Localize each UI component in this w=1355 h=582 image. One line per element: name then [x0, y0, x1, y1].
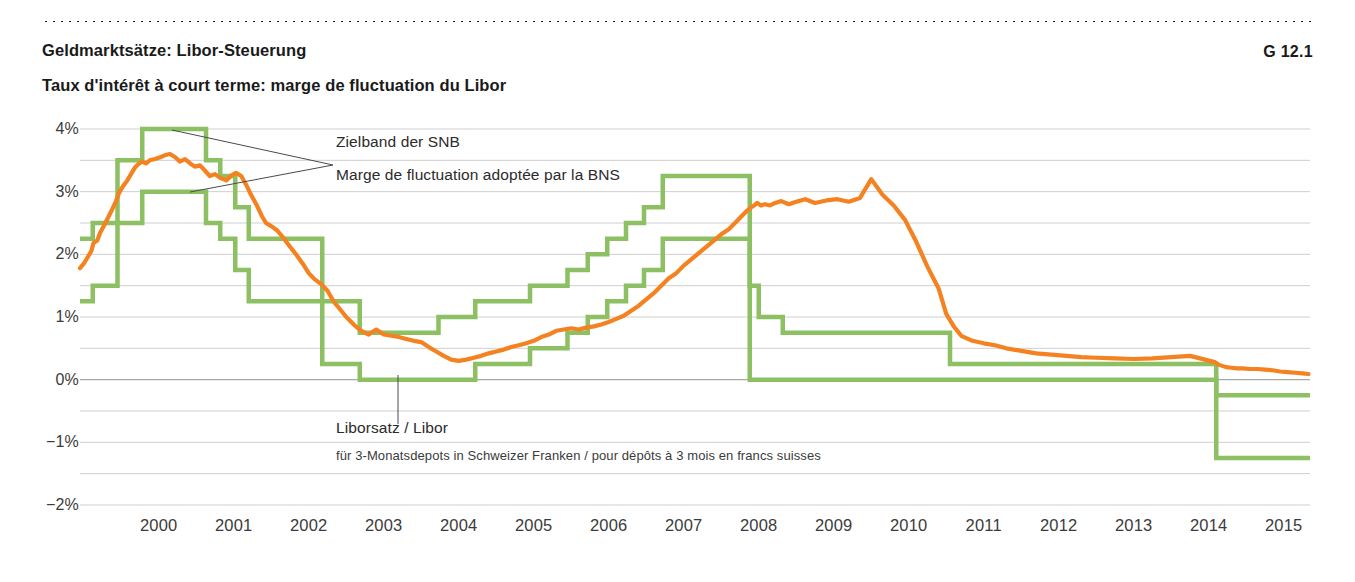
x-tick-2015: 2015	[1265, 516, 1303, 535]
x-tick-2014: 2014	[1190, 516, 1228, 535]
x-tick-2005: 2005	[515, 516, 553, 535]
annotation-band-de: Zielband der SNB	[336, 133, 460, 151]
y-tick-neg2: −2%	[46, 496, 79, 514]
libor-series	[80, 154, 1309, 374]
x-tick-2010: 2010	[890, 516, 928, 535]
y-tick-0: 0%	[55, 371, 79, 389]
y-tick-2: 2%	[55, 245, 79, 263]
x-tick-2003: 2003	[365, 516, 403, 535]
x-tick-2013: 2013	[1115, 516, 1153, 535]
x-tick-2008: 2008	[740, 516, 778, 535]
figure-page: Geldmarktsätze: Libor-Steuerung Taux d'i…	[0, 0, 1355, 582]
y-tick-neg1: −1%	[46, 433, 79, 451]
x-tick-2007: 2007	[665, 516, 703, 535]
x-tick-2001: 2001	[215, 516, 253, 535]
annotation-libor-subtitle: für 3-Monatsdepots in Schweizer Franken …	[336, 448, 821, 463]
x-tick-2009: 2009	[815, 516, 853, 535]
annotation-band-fr: Marge de fluctuation adoptée par la BNS	[336, 166, 620, 184]
y-tick-1: 1%	[55, 308, 79, 326]
x-tick-2012: 2012	[1040, 516, 1078, 535]
x-tick-2000: 2000	[140, 516, 178, 535]
x-tick-2011: 2011	[966, 516, 1002, 535]
annotation-libor: Liborsatz / Libor	[336, 419, 448, 437]
x-tick-2006: 2006	[590, 516, 628, 535]
x-tick-2004: 2004	[440, 516, 478, 535]
x-tick-2002: 2002	[290, 516, 328, 535]
chart-plot-area	[0, 0, 1355, 582]
y-tick-4: 4%	[55, 120, 79, 138]
y-tick-3: 3%	[55, 183, 79, 201]
